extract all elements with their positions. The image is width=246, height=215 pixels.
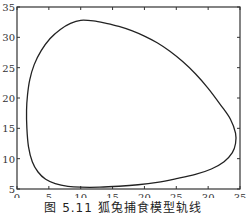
orbit-curve [27,20,237,187]
axes-frame [17,7,240,189]
y-axis-tick-labels: 5101520253035 [2,2,15,195]
figure: 05101520253035 5101520253035 图 5.11 狐兔捕食… [0,0,246,215]
y-tick-label: 20 [2,93,15,104]
plot-area: 05101520253035 5101520253035 [0,0,246,198]
y-tick-label: 35 [2,2,15,13]
y-tick-label: 25 [2,63,15,74]
y-tick-label: 15 [2,123,15,134]
figure-caption: 图 5.11 狐兔捕食模型轨线 [0,198,246,215]
y-tick-label: 5 [9,184,15,195]
y-tick-label: 10 [2,154,15,165]
axis-ticks [17,7,240,189]
y-tick-label: 30 [2,32,15,43]
